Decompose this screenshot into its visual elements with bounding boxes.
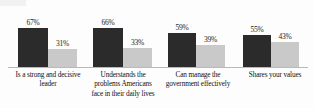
category-label-2: Can manage the government effectively [158,70,238,89]
bar-value-label: 59% [175,24,188,32]
bar-value-label: 67% [26,19,39,27]
x-axis-line [8,67,308,68]
bar-rect [123,48,152,68]
bar-rect [18,28,48,68]
category-label-line: government effectively [158,79,238,88]
category-label-line: Can manage the [158,70,238,79]
bar-dark-0: 67% [18,19,48,68]
bar-light-3: 43% [271,33,299,68]
category-label-line: problems Americans [80,79,166,88]
bar-group-3: 55% 43% [243,8,299,68]
bar-dark-1: 66% [93,19,123,68]
bar-dark-3: 55% [243,26,271,68]
category-label-1: Understands the problems Americans face … [80,70,166,98]
bar-value-label: 31% [56,40,69,48]
category-label-line: face in their daily lives [80,89,166,98]
category-label-0: Is a strong and decisive leader [4,70,92,89]
bar-rect [196,45,225,68]
category-label-line: leader [4,79,92,88]
bar-group-0: 67% 31% [18,8,77,68]
bar-light-1: 33% [123,39,152,68]
grouped-bar-chart: 67% 31% 66% 33% 59% [0,0,314,108]
category-label-3: Shares your values [239,70,311,79]
category-label-line: Understands the [80,70,166,79]
bar-rect [93,28,123,68]
bar-value-label: 55% [250,26,263,34]
bar-value-label: 66% [101,19,114,27]
bar-group-2: 59% 39% [168,8,225,68]
bar-rect [48,49,77,68]
scan-artifact [0,0,26,6]
bar-value-label: 43% [278,33,291,41]
category-label-line: Is a strong and decisive [4,70,92,79]
bar-dark-2: 59% [168,24,196,68]
bar-rect [243,35,271,68]
category-axis-labels: Is a strong and decisive leader Understa… [0,70,314,108]
bar-rect [271,42,299,68]
bar-value-label: 33% [131,39,144,47]
bar-light-0: 31% [48,40,77,68]
bar-rect [168,33,196,68]
plot-area: 67% 31% 66% 33% 59% [0,8,314,68]
category-label-line: Shares your values [239,70,311,79]
bar-light-2: 39% [196,36,225,68]
bar-group-1: 66% 33% [93,8,152,68]
bar-value-label: 39% [204,36,217,44]
